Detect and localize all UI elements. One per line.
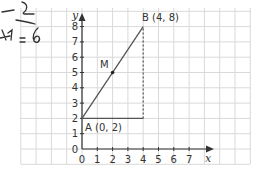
coordinate-diagram: 0 1 2 3 4 5 6 7 x 0 1 2 3 4 5 6 7 8 y A …: [0, 0, 259, 175]
label-M: M: [100, 59, 109, 70]
y-tick-labels: 0 1 2 3 4 5 6 7 8: [72, 21, 78, 154]
y-axis-label: y: [71, 9, 79, 22]
x-tick-labels: 0 1 2 3 4 5 6 7: [79, 154, 192, 165]
point-M: [111, 71, 115, 75]
svg-text:2: 2: [109, 154, 115, 165]
svg-text:6: 6: [171, 154, 177, 165]
svg-text:2: 2: [72, 113, 78, 124]
svg-text:7: 7: [186, 154, 192, 165]
svg-text:3: 3: [125, 154, 131, 165]
svg-text:3: 3: [72, 98, 78, 109]
handwritten-notes: [0, 2, 40, 42]
svg-text:0: 0: [79, 154, 85, 165]
svg-text:0: 0: [72, 144, 78, 155]
label-B: B (4, 8): [142, 12, 179, 23]
svg-text:8: 8: [72, 21, 78, 32]
label-A: A (0, 2): [85, 122, 122, 133]
svg-text:4: 4: [140, 154, 146, 165]
svg-text:7: 7: [72, 36, 78, 47]
svg-text:6: 6: [72, 52, 78, 63]
y-axis-arrow-icon: [79, 13, 86, 21]
svg-text:5: 5: [155, 154, 161, 165]
svg-text:1: 1: [72, 128, 78, 139]
svg-text:1: 1: [94, 154, 100, 165]
x-axis-label: x: [205, 152, 212, 165]
svg-text:5: 5: [72, 67, 78, 78]
grid: [21, 8, 251, 164]
svg-text:4: 4: [72, 82, 78, 93]
